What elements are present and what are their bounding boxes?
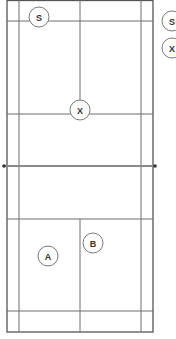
player-a: A [38, 246, 58, 266]
player-x: X [70, 100, 90, 120]
player-a-label: A [45, 252, 52, 262]
player-x-label: X [77, 106, 83, 116]
legend-s-label: S [169, 17, 175, 27]
legend-x-label: X [169, 44, 175, 54]
legend-item-x: X [162, 38, 176, 58]
net-post-left [2, 164, 6, 168]
player-s: S [29, 7, 49, 27]
legend: S X [162, 11, 176, 58]
player-b-label: B [90, 239, 97, 249]
player-b: B [83, 233, 103, 253]
player-s-label: S [36, 13, 42, 23]
legend-item-s: S [162, 11, 176, 31]
badminton-court-diagram: S X A B S X [0, 0, 176, 339]
net-post-right [153, 164, 157, 168]
